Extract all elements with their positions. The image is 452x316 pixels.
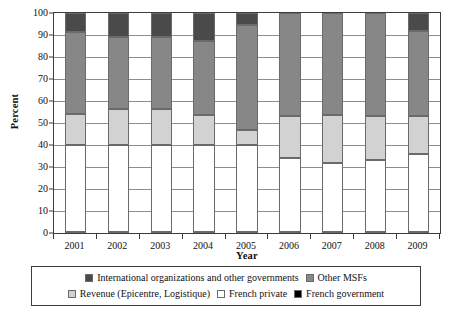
bar-segment[interactable]	[108, 13, 129, 37]
legend-swatch	[217, 290, 225, 298]
bar-segment[interactable]	[322, 115, 343, 162]
y-axis-tick-mark	[49, 57, 54, 58]
y-axis-tick-mark	[49, 123, 54, 124]
bar-segment[interactable]	[236, 145, 257, 232]
legend-swatch	[294, 290, 302, 298]
legend-label: Other MSFs	[318, 273, 367, 283]
bar-segment[interactable]	[108, 37, 129, 109]
legend-swatch	[306, 274, 314, 282]
legend-item[interactable]: Revenue (Epicentre, Logistique)	[68, 289, 210, 299]
bar-group[interactable]	[108, 13, 129, 233]
legend-label: Revenue (Epicentre, Logistique)	[80, 289, 210, 299]
bar-segment[interactable]	[65, 145, 86, 232]
bar-segment[interactable]	[108, 145, 129, 232]
y-axis-tick-label: 70	[2, 74, 48, 84]
bar-segment[interactable]	[151, 145, 172, 232]
x-axis-tick-mark	[439, 234, 440, 239]
y-axis-tick-mark	[49, 101, 54, 102]
bar-segment[interactable]	[322, 13, 343, 115]
x-axis-tick-mark	[310, 234, 311, 239]
plot-area: 0102030405060708090100	[53, 12, 441, 234]
bar-segment[interactable]	[151, 109, 172, 145]
x-axis-tick-mark	[225, 234, 226, 239]
bar-segment[interactable]	[279, 158, 300, 232]
y-axis-tick-label: 90	[2, 30, 48, 40]
y-axis-tick-label: 40	[2, 140, 48, 150]
bar-segment[interactable]	[236, 13, 257, 25]
bar-segment[interactable]	[236, 25, 257, 130]
y-axis-tick-mark	[49, 35, 54, 36]
bar-segment[interactable]	[408, 116, 429, 153]
legend-swatch	[68, 290, 76, 298]
y-axis-tick-label: 20	[2, 184, 48, 194]
y-axis-tick-label: 0	[2, 228, 48, 238]
x-axis-tick-mark	[353, 234, 354, 239]
x-axis-tick-mark	[182, 234, 183, 239]
bar-segment[interactable]	[151, 13, 172, 37]
bar-segment[interactable]	[236, 130, 257, 145]
y-axis-tick-label: 60	[2, 96, 48, 106]
bar-group[interactable]	[365, 13, 386, 233]
bar-segment[interactable]	[408, 13, 429, 31]
legend-label: French private	[229, 289, 287, 299]
stacked-bar-chart-figure: Percent 0102030405060708090100 200120022…	[0, 0, 452, 316]
bar-segment[interactable]	[279, 116, 300, 158]
bar-segment[interactable]	[65, 32, 86, 115]
bar-segment[interactable]	[408, 31, 429, 117]
y-axis-tick-label: 10	[2, 206, 48, 216]
bar-group[interactable]	[279, 13, 300, 233]
y-axis-tick-label: 80	[2, 52, 48, 62]
legend-item[interactable]: French government	[294, 289, 384, 299]
legend-swatch	[85, 274, 93, 282]
x-axis-tick-mark	[53, 234, 54, 239]
bars-layer	[54, 13, 440, 233]
bar-group[interactable]	[322, 13, 343, 233]
y-axis-tick-mark	[49, 145, 54, 146]
legend-item[interactable]: Other MSFs	[306, 273, 367, 283]
bar-group[interactable]	[408, 13, 429, 233]
bar-segment[interactable]	[193, 115, 214, 145]
bar-segment[interactable]	[193, 41, 214, 116]
chart-legend: International organizations and other go…	[31, 266, 421, 306]
legend-item[interactable]: French private	[217, 289, 287, 299]
bar-segment[interactable]	[65, 114, 86, 145]
bar-group[interactable]	[65, 13, 86, 233]
legend-row-1: International organizations and other go…	[36, 270, 416, 286]
y-axis-tick-mark	[49, 79, 54, 80]
bar-segment[interactable]	[65, 13, 86, 32]
bar-segment[interactable]	[279, 13, 300, 116]
y-axis-tick-label: 30	[2, 162, 48, 172]
legend-item[interactable]: International organizations and other go…	[85, 273, 298, 283]
bar-group[interactable]	[151, 13, 172, 233]
y-axis-tick-mark	[49, 13, 54, 14]
bar-segment[interactable]	[322, 163, 343, 232]
bar-segment[interactable]	[408, 154, 429, 232]
legend-label: International organizations and other go…	[97, 273, 298, 283]
x-axis-tick-mark	[96, 234, 97, 239]
legend-row-2: Revenue (Epicentre, Logistique)French pr…	[36, 286, 416, 302]
bar-segment[interactable]	[151, 37, 172, 109]
bar-group[interactable]	[193, 13, 214, 233]
bar-group[interactable]	[236, 13, 257, 233]
y-axis-tick-label: 50	[2, 118, 48, 128]
y-axis-tick-mark	[49, 211, 54, 212]
bar-segment[interactable]	[108, 109, 129, 145]
x-axis-tick-mark	[267, 234, 268, 239]
bar-segment[interactable]	[193, 145, 214, 232]
y-axis-tick-mark	[49, 167, 54, 168]
bar-segment[interactable]	[365, 116, 386, 160]
x-axis-tick-mark	[396, 234, 397, 239]
x-axis-label: Year	[53, 250, 441, 261]
x-axis-tick-mark	[139, 234, 140, 239]
legend-label: French government	[306, 289, 384, 299]
bar-segment[interactable]	[365, 13, 386, 116]
y-axis-tick-mark	[49, 189, 54, 190]
bar-segment[interactable]	[193, 13, 214, 41]
y-axis-tick-label: 100	[2, 8, 48, 18]
bar-segment[interactable]	[365, 160, 386, 232]
